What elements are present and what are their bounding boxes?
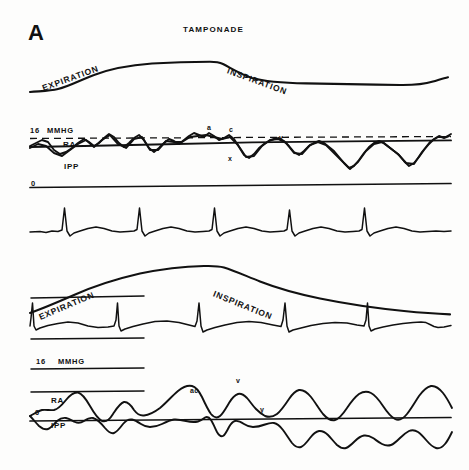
pressure-reference-dashline-upper: [30, 137, 451, 139]
pressure-scale-value-lower: 16: [36, 358, 46, 366]
ra-label-lower: RA: [51, 397, 64, 405]
tamponade-figure: A TAMPONADE EXPIRATION INSPIRATION 16 MM…: [0, 0, 469, 470]
wave-label-ac-lower: ac: [190, 387, 199, 394]
pressure-scale-unit-upper: MMHG: [47, 127, 74, 135]
ra-label-upper: RA: [63, 141, 76, 149]
ipp-label-upper: IPP: [64, 163, 79, 171]
wave-label-a-upper: a: [207, 124, 211, 131]
calibration-bar-lower-mid: [31, 338, 144, 339]
figure-title: TAMPONADE: [183, 26, 244, 34]
ra-curve-upper-overlay: [30, 134, 451, 169]
zero-label-upper: 0: [31, 180, 36, 188]
wave-label-v-upper: v: [279, 134, 283, 141]
wave-label-y-lower: y: [260, 406, 264, 413]
wave-label-v-lower: v: [236, 377, 240, 384]
wave-label-x-upper: x: [228, 155, 232, 162]
wave-label-c-upper: c: [229, 126, 233, 133]
calibration-bar-lower-scale: [31, 368, 144, 369]
ecg-curve-upper: [30, 208, 451, 236]
pressure-scale-value-upper: 16: [30, 127, 40, 135]
zero-baseline-upper: [30, 184, 451, 188]
zero-label-lower: 0: [35, 409, 40, 417]
ipp-label-lower: IPP: [51, 422, 66, 430]
panel-label-a: A: [28, 22, 44, 44]
calibration-bar-lower-bottom: [31, 391, 144, 392]
pressure-scale-unit-lower: MMHG: [58, 358, 85, 366]
